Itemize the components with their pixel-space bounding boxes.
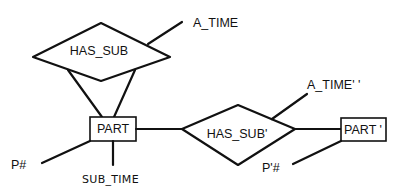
connector-line: [148, 22, 182, 44]
attribute-label: A_TIME: [193, 16, 238, 30]
er-diagram: HAS_SUB A_TIME PART P# SUB_TIME HAS_SUB'…: [0, 0, 399, 194]
connector-line: [293, 141, 341, 164]
attribute-a-time-prime: A_TIME' ': [272, 78, 360, 119]
attribute-label: A_TIME' ': [307, 78, 360, 92]
entity-label: PART: [97, 122, 130, 136]
recursive-connectors: [68, 70, 135, 117]
attribute-label: P'#: [262, 161, 280, 175]
connector-line: [272, 94, 307, 119]
relationship-has-sub: HAS_SUB: [33, 23, 170, 81]
connector-line-left: [68, 70, 102, 117]
attribute-p-prime-num: P'#: [262, 141, 341, 175]
relationship-label: HAS_SUB: [70, 44, 128, 58]
attribute-label: P#: [11, 158, 26, 172]
entity-label: PART ': [344, 123, 382, 137]
attribute-sub-time: SUB_TIME: [82, 141, 139, 186]
attribute-p-num: P#: [11, 141, 90, 172]
connector-line-right: [114, 70, 135, 117]
entity-part: PART: [90, 117, 136, 141]
attribute-a-time: A_TIME: [148, 16, 238, 44]
relationship-label: HAS_SUB': [207, 127, 268, 141]
entity-part-prime: PART ': [341, 118, 386, 141]
connector-line: [42, 141, 90, 163]
attribute-label: SUB_TIME: [82, 173, 139, 186]
